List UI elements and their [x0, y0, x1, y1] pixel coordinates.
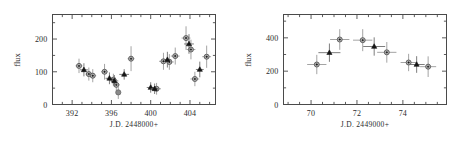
data-point	[196, 62, 204, 78]
y-axis-label-right: flux	[243, 52, 253, 66]
y-tick-label: 0	[43, 101, 47, 110]
data-point	[401, 54, 417, 71]
x-tick-label: 72	[353, 109, 361, 118]
data-point	[128, 46, 135, 71]
y-tick-label: 0	[274, 101, 278, 110]
data-point	[307, 55, 326, 74]
data-point	[151, 84, 159, 94]
data-point	[353, 29, 372, 51]
marker-center-dot	[427, 66, 428, 67]
x-tick-label: 70	[307, 109, 315, 118]
marker-center-dot	[92, 75, 93, 76]
marker-center-dot	[116, 84, 117, 85]
marker-center-dot	[194, 78, 195, 79]
y-tick-label: 200	[35, 35, 48, 44]
chart-svg-left: 3923964004040100200 J.D. 2448000+ flux	[0, 0, 231, 143]
x-tick-label: 400	[144, 109, 157, 118]
figure-container: 3923964004040100200 J.D. 2448000+ flux 7…	[0, 0, 462, 143]
y-axis-label-left: flux	[12, 52, 22, 66]
marker-center-dot	[339, 39, 340, 40]
x-tick-label: 74	[399, 109, 407, 118]
axis-ticks-right	[284, 15, 447, 105]
marker-center-dot	[78, 65, 79, 66]
data-points-left	[76, 26, 212, 99]
x-axis-caption-right: J.D. 2449000+	[341, 120, 389, 129]
axis-ticks-left	[53, 15, 216, 105]
marker-center-dot	[316, 64, 317, 65]
data-point	[330, 29, 349, 50]
data-point	[147, 82, 155, 92]
data-points-right	[307, 29, 436, 77]
chart-svg-right: 7072740200400 J.D. 2449000+ flux	[231, 0, 462, 143]
data-point	[190, 72, 199, 86]
x-axis-caption-left: J.D. 2448000+	[110, 120, 158, 129]
y-tick-label: 100	[35, 68, 48, 77]
y-tick-label: 200	[266, 67, 279, 76]
marker-center-dot	[104, 71, 105, 72]
plot-frame-left	[53, 15, 216, 105]
chart-panel-right: 7072740200400 J.D. 2449000+ flux	[231, 0, 462, 143]
data-point	[89, 69, 96, 82]
x-tick-label: 404	[184, 109, 197, 118]
marker-gray-circle	[116, 90, 121, 95]
data-point	[409, 56, 425, 73]
marker-center-dot	[175, 55, 176, 56]
marker-center-dot	[408, 62, 409, 63]
marker-center-dot	[163, 61, 164, 62]
marker-center-dot	[190, 49, 191, 50]
data-point	[202, 46, 211, 68]
y-tick-label: 400	[266, 34, 279, 43]
marker-center-dot	[88, 73, 89, 74]
marker-center-dot	[362, 39, 363, 40]
data-point	[420, 56, 436, 77]
marker-center-dot	[206, 56, 207, 57]
data-point	[101, 64, 108, 80]
marker-center-dot	[386, 52, 387, 53]
data-point	[377, 42, 396, 63]
x-tick-label: 396	[105, 109, 118, 118]
marker-center-dot	[130, 58, 131, 59]
plot-frame-right	[284, 15, 447, 105]
chart-panel-left: 3923964004040100200 J.D. 2448000+ flux	[0, 0, 231, 143]
data-point	[119, 69, 129, 79]
axis-labels-left: 3923964004040100200	[35, 35, 196, 117]
data-point	[163, 52, 171, 68]
marker-center-dot	[185, 37, 186, 38]
data-point	[318, 44, 340, 62]
x-tick-label: 392	[66, 109, 79, 118]
